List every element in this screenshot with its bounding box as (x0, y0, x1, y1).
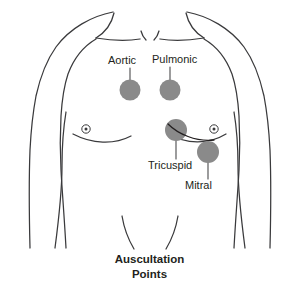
nipple-left-center (85, 128, 88, 131)
shoulder-left-outer-line (29, 12, 113, 248)
figure-caption-line-2: Points (0, 267, 299, 282)
neck-right-line (186, 13, 204, 38)
sternal-notch-right-mark (154, 31, 159, 40)
figure-caption-line-1: Auscultation (0, 252, 299, 267)
point-marker-aortic[interactable] (120, 80, 141, 101)
pectoral-fold-left-line (73, 134, 131, 142)
point-marker-pulmonic[interactable] (160, 80, 181, 101)
point-label-pulmonic: Pulmonic (152, 54, 197, 65)
point-marker-mitral[interactable] (197, 141, 219, 163)
sternal-notch-left-mark (141, 31, 146, 40)
point-label-aortic: Aortic (108, 55, 136, 66)
shoulder-right-outer-line (187, 12, 271, 248)
point-label-tricuspid: Tricuspid (148, 160, 192, 171)
abdomen-left-line (122, 216, 134, 249)
point-label-mitral: Mitral (185, 180, 212, 191)
neck-left-line (96, 13, 114, 38)
nipple-landmarks-group (82, 125, 218, 133)
abdomen-right-line (166, 216, 178, 249)
trunk-left-side-line (60, 39, 96, 248)
auscultation-points-group (120, 80, 220, 164)
clavicle-right-line (160, 38, 204, 40)
nipple-right-center (213, 128, 216, 131)
auscultation-points-figure: Aortic Pulmonic Tricuspid Mitral Auscult… (0, 0, 299, 297)
clavicle-left-line (96, 38, 140, 40)
figure-caption: Auscultation Points (0, 252, 299, 281)
body-outline-group (29, 12, 271, 249)
